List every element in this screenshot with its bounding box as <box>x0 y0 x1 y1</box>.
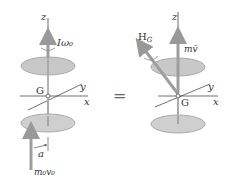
omega-label: Iω₀ <box>56 37 73 48</box>
a-label: a <box>38 148 44 159</box>
x-label-right: x <box>213 96 219 107</box>
impulse-label: m₀v₀ <box>34 167 55 177</box>
equals-sign: = <box>113 86 126 105</box>
mv-label: mv̄ <box>184 44 198 54</box>
y-label-right: y <box>207 81 214 92</box>
impulse-momentum-diagram: z Iω₀ G y x a m₀v₀ = z mv̄ <box>0 0 227 184</box>
z-label-right: z <box>171 11 178 22</box>
left-diagram: z Iω₀ G y x a m₀v₀ <box>20 11 90 177</box>
y-label: y <box>79 81 86 92</box>
right-diagram: z mv̄ HG G y x <box>138 11 219 133</box>
center-G <box>46 94 50 98</box>
G-label: G <box>36 85 44 96</box>
G-label-right: G <box>181 97 189 108</box>
center-G-right <box>176 94 180 98</box>
z-label: z <box>40 11 47 22</box>
HG-label: HG <box>138 31 153 44</box>
x-label: x <box>84 96 90 107</box>
